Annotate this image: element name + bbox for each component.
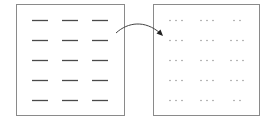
dot bbox=[169, 40, 171, 42]
dot bbox=[181, 40, 183, 42]
dot bbox=[175, 40, 177, 42]
right-box bbox=[154, 5, 260, 116]
dot bbox=[212, 100, 214, 102]
dot bbox=[230, 60, 232, 62]
dot bbox=[181, 20, 183, 22]
dot bbox=[169, 60, 171, 62]
dot bbox=[212, 80, 214, 82]
dot bbox=[200, 100, 202, 102]
dot bbox=[169, 20, 171, 22]
dot bbox=[175, 80, 177, 82]
dot bbox=[200, 80, 202, 82]
dot bbox=[212, 40, 214, 42]
dot bbox=[200, 20, 202, 22]
dot bbox=[212, 20, 214, 22]
dot bbox=[239, 20, 241, 22]
dot bbox=[230, 80, 232, 82]
dot bbox=[181, 80, 183, 82]
dot bbox=[169, 100, 171, 102]
dot bbox=[236, 60, 238, 62]
dot bbox=[233, 20, 235, 22]
dot bbox=[206, 40, 208, 42]
dot bbox=[181, 60, 183, 62]
dot bbox=[181, 100, 183, 102]
dot bbox=[230, 40, 232, 42]
dot bbox=[206, 100, 208, 102]
dot bbox=[242, 60, 244, 62]
dot bbox=[206, 60, 208, 62]
dot bbox=[175, 20, 177, 22]
dot bbox=[239, 100, 241, 102]
dot bbox=[236, 80, 238, 82]
dot bbox=[200, 40, 202, 42]
dot bbox=[175, 60, 177, 62]
left-box bbox=[17, 5, 125, 116]
dot bbox=[233, 100, 235, 102]
dot bbox=[236, 40, 238, 42]
dot bbox=[206, 80, 208, 82]
dot bbox=[242, 80, 244, 82]
diagram-canvas bbox=[0, 0, 274, 125]
dot bbox=[175, 100, 177, 102]
dot bbox=[206, 20, 208, 22]
dot bbox=[242, 40, 244, 42]
dot bbox=[169, 80, 171, 82]
dot bbox=[200, 60, 202, 62]
dot bbox=[212, 60, 214, 62]
